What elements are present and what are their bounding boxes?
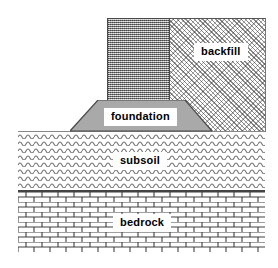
label-bedrock: bedrock — [113, 214, 171, 232]
label-foundation: foundation — [104, 108, 177, 126]
label-backfill: backfill — [194, 43, 248, 61]
label-subsoil: subsoil — [113, 152, 167, 170]
cross-section-diagram: backfill foundation subsoil bedrock — [0, 0, 278, 268]
retaining-wall-column — [107, 18, 170, 112]
